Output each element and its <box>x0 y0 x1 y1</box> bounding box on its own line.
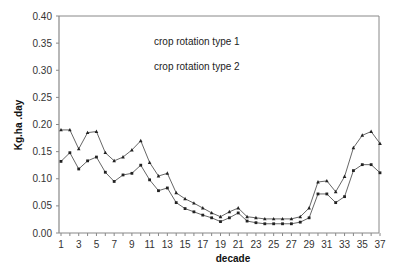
series-layer <box>59 128 382 225</box>
data-point <box>113 180 116 183</box>
data-point <box>263 222 266 225</box>
data-point <box>369 130 373 133</box>
data-point <box>317 193 320 196</box>
x-tick-label: 11 <box>144 239 155 250</box>
y-tick-label: 0.30 <box>33 65 53 76</box>
data-point <box>104 171 107 174</box>
data-point <box>255 221 258 224</box>
data-point <box>95 130 99 133</box>
data-point <box>343 195 346 198</box>
data-point <box>139 164 142 167</box>
data-point <box>237 212 240 215</box>
data-point <box>290 222 293 225</box>
data-point <box>148 160 152 163</box>
data-point <box>184 207 187 210</box>
x-tick-label: 17 <box>197 239 209 250</box>
data-point <box>166 171 170 174</box>
data-point <box>77 168 80 171</box>
x-tick-label: 21 <box>233 239 245 250</box>
y-tick-label: 0.10 <box>33 173 53 184</box>
data-point <box>334 201 337 204</box>
data-point <box>157 189 160 192</box>
legend: crop rotation type 1 crop rotation type … <box>154 36 240 72</box>
y-tick-label: 0.20 <box>33 119 53 130</box>
x-tick-label: 31 <box>321 239 333 250</box>
x-tick-label: 5 <box>94 239 100 250</box>
data-point <box>175 201 178 204</box>
y-tick-label: 0.35 <box>33 38 53 49</box>
x-tick-label: 19 <box>215 239 227 250</box>
y-tick-label: 0.40 <box>33 11 53 22</box>
x-tick-label: 27 <box>286 239 298 250</box>
data-point <box>308 216 311 219</box>
data-point <box>210 216 213 219</box>
data-point <box>236 206 240 209</box>
data-point <box>281 222 284 225</box>
data-point <box>352 169 355 172</box>
data-point <box>166 187 169 190</box>
x-tick-label: 33 <box>339 239 351 250</box>
x-tick-label: 1 <box>58 239 64 250</box>
data-point <box>379 171 382 174</box>
data-point <box>343 175 347 178</box>
x-tick-label: 23 <box>250 239 262 250</box>
series-line <box>61 130 380 219</box>
data-point <box>193 210 196 213</box>
series-line <box>61 153 380 224</box>
y-tick-label: 0.15 <box>33 146 53 157</box>
x-tick-label: 29 <box>304 239 316 250</box>
data-point <box>183 197 187 200</box>
x-tick-label: 37 <box>374 239 386 250</box>
x-axis-title: decade <box>216 253 251 264</box>
data-point <box>201 214 204 217</box>
y-tick-label: 0.25 <box>33 92 53 103</box>
x-tick-label: 35 <box>357 239 369 250</box>
y-tick-label: 0.00 <box>33 228 53 239</box>
data-point <box>370 163 373 166</box>
data-point <box>148 178 151 181</box>
y-axis-title: Kg.ha .day <box>13 99 24 150</box>
data-point <box>272 222 275 225</box>
y-tick-label: 0.05 <box>33 200 53 211</box>
data-point <box>95 156 98 159</box>
x-tick-label: 15 <box>179 239 191 250</box>
x-tick-label: 7 <box>111 239 117 250</box>
legend-item-type2: crop rotation type 2 <box>154 61 240 72</box>
data-point <box>361 163 364 166</box>
data-point <box>139 139 143 142</box>
data-point <box>307 206 311 209</box>
data-point <box>60 160 63 163</box>
data-point <box>130 172 133 175</box>
data-point <box>325 179 329 182</box>
data-point <box>86 159 89 162</box>
data-point <box>174 191 178 194</box>
plot-frame <box>59 16 379 233</box>
data-point <box>122 174 125 177</box>
data-point <box>299 221 302 224</box>
x-tick-label: 25 <box>268 239 280 250</box>
x-tick-label: 3 <box>76 239 82 250</box>
line-chart: 0.000.050.100.150.200.250.300.350.40 135… <box>0 0 401 273</box>
data-point <box>104 151 108 154</box>
y-axis: 0.000.050.100.150.200.250.300.350.40 <box>33 11 59 239</box>
x-axis: 135791113151719212325272931333537 <box>58 233 386 250</box>
data-point <box>68 151 71 154</box>
data-point <box>246 220 249 223</box>
data-point <box>325 193 328 196</box>
legend-item-type1: crop rotation type 1 <box>154 36 240 47</box>
data-point <box>228 216 231 219</box>
x-tick-label: 13 <box>162 239 174 250</box>
data-point <box>219 220 222 223</box>
x-tick-label: 9 <box>129 239 135 250</box>
